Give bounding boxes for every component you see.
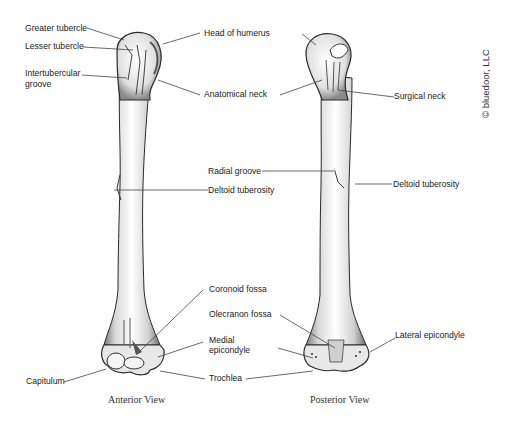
label-coronoid-fossa: Coronoid fossa [209,284,267,295]
label-capitulum: Capitulum [26,376,65,387]
bone-illustrations [0,0,506,427]
caption-anterior-view: Anterior View [108,394,165,405]
label-lesser-tubercle: Lesser tubercle [25,41,84,52]
label-intertubercular-groove-line1: Intertubercular [25,68,80,79]
label-deltoid-tuberosity-posterior: Deltoid tuberosity [393,179,459,190]
caption-posterior-view: Posterior View [310,394,370,405]
humerus-diagram: Greater tubercle Lesser tubercle Intertu… [0,0,506,427]
label-head-of-humerus: Head of humerus [204,28,270,39]
label-medial-epicondyle-line2: epicondyle [209,345,250,356]
label-radial-groove: Radial groove [208,166,261,177]
label-lateral-epicondyle: Lateral epicondyle [395,330,465,341]
label-anatomical-neck: Anatomical neck [204,89,267,100]
label-olecranon-fossa: Olecranon fossa [209,309,272,320]
label-intertubercular-groove-line2: groove [25,79,51,90]
label-trochlea: Trochlea [209,373,242,384]
posterior-humerus [304,34,369,371]
copyright-notice: © bluedoor, LLC [480,49,491,118]
label-surgical-neck: Surgical neck [394,91,446,102]
anterior-humerus [102,32,164,374]
label-greater-tubercle: Greater tubercle [25,23,87,34]
label-deltoid-tuberosity-anterior: Deltoid tuberosity [208,185,274,196]
